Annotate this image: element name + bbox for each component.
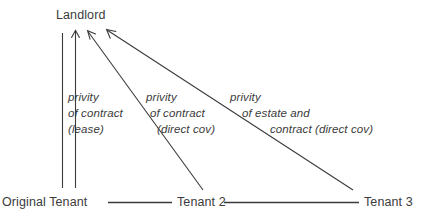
edge-label-1-line-2: of contract xyxy=(68,105,123,121)
node-label-original-tenant: Original Tenant xyxy=(2,196,87,209)
edge-label-2-line-1: privity xyxy=(146,89,215,105)
edge-label-privity-of-contract-lease: privity of contract (lease) xyxy=(68,89,123,137)
edge-label-3-line-3: contract (direct cov) xyxy=(230,121,373,137)
edge-label-3-line-2: of estate and xyxy=(230,105,373,121)
node-label-landlord: Landlord xyxy=(56,9,105,22)
edge-label-privity-of-contract-direct-cov: privity of contract (direct cov) xyxy=(146,89,215,137)
node-label-tenant-2: Tenant 2 xyxy=(177,196,226,209)
edge-label-1-line-3: (lease) xyxy=(68,121,123,137)
edge-label-1-line-1: privity xyxy=(68,89,123,105)
edge-label-privity-of-estate-and-contract: privity of estate and contract (direct c… xyxy=(230,89,373,137)
edge-label-2-line-2: of contract xyxy=(146,105,215,121)
edge-label-3-line-1: privity xyxy=(230,89,373,105)
edge-label-2-line-3: (direct cov) xyxy=(146,121,215,137)
privity-diagram: Landlord Original Tenant Tenant 2 Tenant… xyxy=(0,0,427,218)
node-label-tenant-3: Tenant 3 xyxy=(364,196,413,209)
